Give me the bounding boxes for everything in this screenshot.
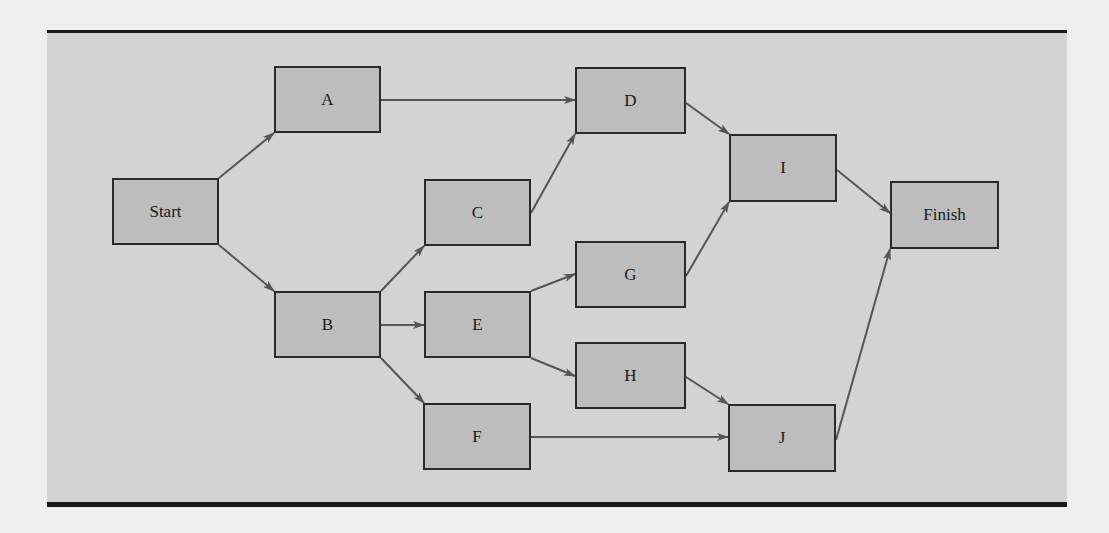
node-i: I bbox=[729, 134, 837, 202]
node-label: I bbox=[780, 158, 786, 178]
edge-h-to-j bbox=[686, 377, 728, 404]
edge-c-to-d bbox=[531, 134, 575, 213]
node-b: B bbox=[274, 291, 381, 358]
node-label: Start bbox=[149, 202, 181, 222]
node-label: B bbox=[322, 315, 333, 335]
node-label: E bbox=[472, 315, 482, 335]
node-c: C bbox=[424, 179, 531, 246]
edge-start-to-a bbox=[219, 133, 274, 178]
node-label: F bbox=[472, 427, 481, 447]
node-label: H bbox=[624, 366, 636, 386]
node-label: D bbox=[624, 91, 636, 111]
edge-i-to-finish bbox=[837, 170, 890, 213]
edge-b-to-f bbox=[381, 358, 424, 403]
edge-d-to-i bbox=[686, 103, 729, 134]
edge-start-to-b bbox=[219, 245, 274, 291]
node-start: Start bbox=[112, 178, 219, 245]
node-e: E bbox=[424, 291, 531, 358]
node-label: G bbox=[624, 265, 636, 285]
node-label: C bbox=[472, 203, 483, 223]
node-f: F bbox=[423, 403, 531, 470]
node-g: G bbox=[575, 241, 686, 308]
node-label: A bbox=[321, 90, 333, 110]
edge-e-to-g bbox=[531, 274, 575, 291]
node-h: H bbox=[575, 342, 686, 409]
node-j: J bbox=[728, 404, 836, 472]
edges-layer bbox=[0, 0, 1109, 533]
edge-j-to-finish bbox=[836, 249, 890, 440]
node-label: Finish bbox=[923, 205, 966, 225]
node-label: J bbox=[779, 428, 786, 448]
edge-e-to-h bbox=[531, 358, 575, 376]
node-d: D bbox=[575, 67, 686, 134]
node-a: A bbox=[274, 66, 381, 133]
node-finish: Finish bbox=[890, 181, 999, 249]
edge-g-to-i bbox=[686, 202, 729, 276]
edge-b-to-c bbox=[381, 246, 424, 291]
